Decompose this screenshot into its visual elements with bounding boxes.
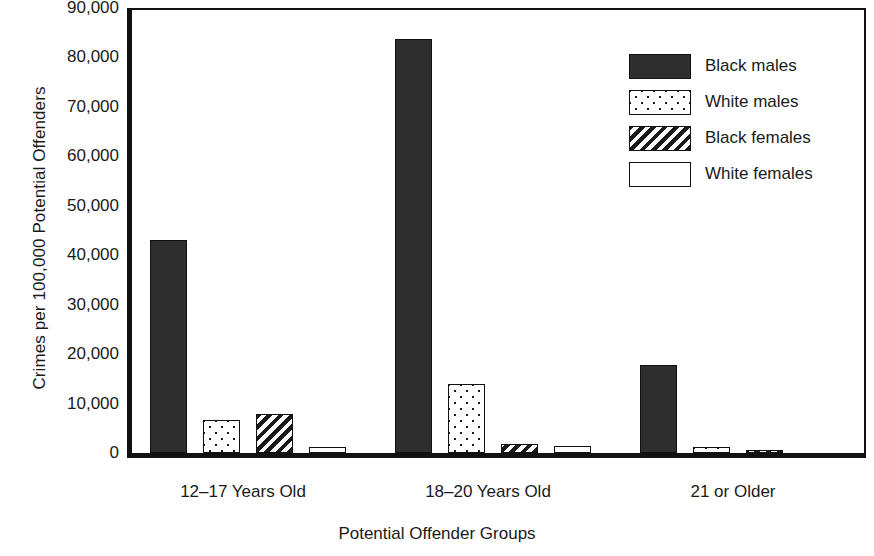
x-category-label: 21 or Older [690,482,775,502]
bar [150,240,187,453]
bar-chart-figure: Crimes per 100,000 Potential Offenders 0… [0,0,874,556]
legend-item: Black males [629,48,813,84]
y-tick-label: 20,000 [9,344,119,364]
bar [640,365,677,453]
y-tick-label: 60,000 [9,146,119,166]
y-tick-label: 10,000 [9,394,119,414]
y-tick-label: 80,000 [9,47,119,67]
hatched-swatch [629,126,691,151]
y-tick-label: 50,000 [9,196,119,216]
bar [501,444,538,453]
plain-swatch [629,162,691,187]
legend-item: White females [629,156,813,192]
legend-label: Black females [705,128,811,148]
y-tick-label: 0 [9,443,119,463]
y-tick-label: 90,000 [9,0,119,18]
bar [309,447,346,453]
y-tick-label: 70,000 [9,97,119,117]
dotted-swatch [629,90,691,115]
legend-label: White females [705,164,813,184]
bar [203,420,240,453]
solid-dark-swatch [629,54,691,79]
y-tick-label: 30,000 [9,295,119,315]
y-tick-label: 40,000 [9,245,119,265]
bar [554,446,591,453]
chart-legend: Black malesWhite malesBlack femalesWhite… [629,48,813,192]
bar [448,384,485,453]
bar [746,450,783,453]
legend-label: White males [705,92,799,112]
x-category-label: 18–20 Years Old [425,482,551,502]
legend-item: Black females [629,120,813,156]
legend-label: Black males [705,56,797,76]
legend-item: White males [629,84,813,120]
bar [256,414,293,453]
bar [395,39,432,453]
x-axis-title: Potential Offender Groups [0,524,874,544]
bar [693,447,730,453]
x-category-label: 12–17 Years Old [180,482,306,502]
